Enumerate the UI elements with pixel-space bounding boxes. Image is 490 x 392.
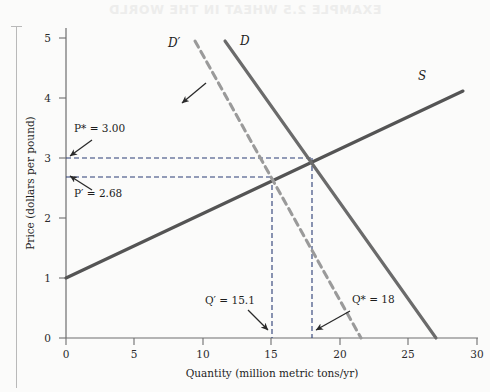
y-tick-label-0: 0 <box>44 332 51 344</box>
y-tick-label-4: 4 <box>44 92 51 104</box>
supply-curve-S <box>66 91 463 278</box>
annotation-arrow-q-prime <box>248 310 268 330</box>
annotation-label-p-prime: P′ = 2.68 <box>74 187 122 199</box>
y-tick-label-5: 5 <box>44 32 51 44</box>
annotation-p-prime: P′ = 2.68 <box>70 176 122 199</box>
x-tick-label-10: 10 <box>196 348 209 360</box>
curve-label-D: D <box>239 34 250 48</box>
page-background: EXAMPLE 2.5 WHEAT IN THE WORLD 0 1 2 3 4… <box>0 0 490 392</box>
x-tick-label-0: 0 <box>63 348 70 360</box>
x-tick-label-25: 25 <box>401 348 414 360</box>
y-axis-title: Price (dollars per pound) <box>24 116 36 249</box>
annotation-arrow-p-star <box>70 140 92 156</box>
x-tick-label-30: 30 <box>470 348 483 360</box>
curve-label-S: S <box>418 69 426 83</box>
y-axis-ticks: 0 1 2 3 4 5 <box>44 32 66 344</box>
x-tick-label-15: 15 <box>264 348 277 360</box>
guide-lines <box>66 158 312 338</box>
annotation-arrow-q-star <box>316 311 350 330</box>
x-tick-label-5: 5 <box>131 348 138 360</box>
annotation-label-p-star: P* = 3.00 <box>74 122 125 134</box>
annotation-label-q-prime: Q′ = 15.1 <box>205 294 255 306</box>
supply-demand-chart: 0 1 2 3 4 5 0 5 10 15 20 25 30 Quantity … <box>0 0 490 392</box>
x-tick-label-20: 20 <box>333 348 346 360</box>
annotation-p-star: P* = 3.00 <box>70 122 125 156</box>
y-tick-label-2: 2 <box>44 212 51 224</box>
annotation-q-star: Q* = 18 <box>316 293 395 330</box>
y-tick-label-1: 1 <box>44 272 51 284</box>
annotation-label-q-star: Q* = 18 <box>352 293 395 305</box>
x-axis-title: Quantity (million metric tons/yr) <box>186 367 359 379</box>
annotation-arrow-demand-shift <box>182 83 206 103</box>
x-axis-ticks: 0 5 10 15 20 25 30 <box>63 338 484 360</box>
curve-label-D-prime: D′ <box>167 36 181 50</box>
annotation-q-prime: Q′ = 15.1 <box>205 294 268 330</box>
y-tick-label-3: 3 <box>44 152 51 164</box>
